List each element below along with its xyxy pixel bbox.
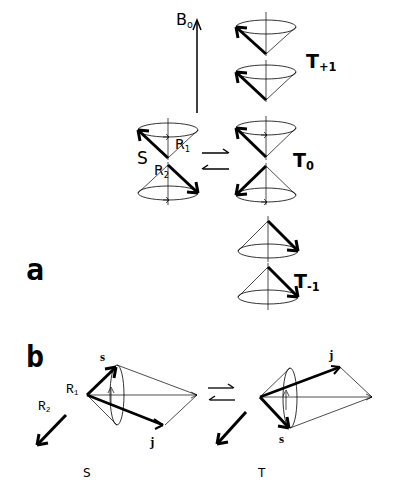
equilibrium-arrows-b <box>208 384 235 400</box>
label-t-plus-one: T+1 <box>306 52 336 74</box>
caption-s: S <box>83 467 91 479</box>
label-t-minus-one: T-1 <box>294 272 320 294</box>
cone-t-minus-upper <box>238 216 298 262</box>
cone-t-minus-lower <box>238 263 298 310</box>
label-r1: R1 <box>175 137 190 153</box>
cone-t-zero-lower <box>236 163 296 205</box>
caption-t: T <box>258 467 265 479</box>
label-t-zero: T0 <box>293 151 314 173</box>
label-r1-b: R1 <box>66 383 79 398</box>
label-j-left: j <box>150 435 154 448</box>
vector-diagram-triplet <box>217 366 372 444</box>
label-j-right: j <box>329 348 333 361</box>
vector-diagram-singlet <box>37 365 197 445</box>
label-s-left: s <box>100 350 105 363</box>
label-r2-b: R2 <box>38 400 51 415</box>
spin-state-figure: Bo T+1 S R1 R2 T0 T-1 a b s R1 R2 j S j … <box>0 0 393 490</box>
label-s-right: s <box>279 432 284 445</box>
cone-t-plus-lower <box>236 60 296 102</box>
panel-letter-b: b <box>26 342 44 372</box>
panel-letter-a: a <box>26 255 44 285</box>
cone-t-zero-upper <box>236 116 296 160</box>
label-r2: R2 <box>154 163 169 179</box>
field-arrow-b0 <box>193 20 201 113</box>
cone-t-plus-upper <box>236 12 296 56</box>
field-label-b0: Bo <box>176 12 193 29</box>
label-singlet-s: S <box>137 150 148 167</box>
equilibrium-arrows-a <box>202 149 229 169</box>
